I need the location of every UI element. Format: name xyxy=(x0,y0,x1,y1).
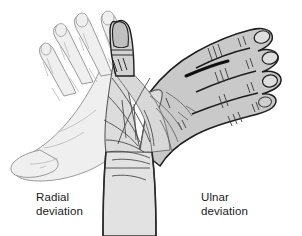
wrist-deviation-figure: Radial deviation Ulnar deviation xyxy=(0,0,302,236)
radial-nail-ring xyxy=(56,24,67,37)
radial-nail-middle xyxy=(76,13,88,27)
caption-ulnar-deviation: Ulnar deviation xyxy=(201,190,248,218)
radial-nail-little xyxy=(41,43,51,55)
caption-radial-deviation: Radial deviation xyxy=(36,190,83,218)
thumbnail xyxy=(113,22,129,48)
